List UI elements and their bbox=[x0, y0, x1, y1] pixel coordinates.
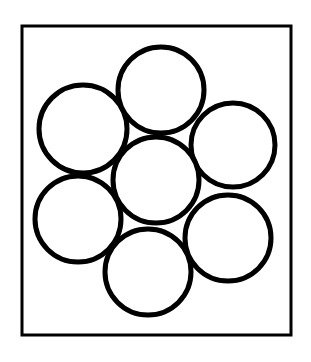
figure-container bbox=[0, 0, 311, 362]
circle-lower-right bbox=[185, 195, 271, 281]
figure-caption bbox=[0, 340, 311, 362]
circle-bottom bbox=[105, 229, 191, 315]
circle-upper-left bbox=[39, 85, 127, 173]
circle-packing-diagram bbox=[0, 0, 311, 362]
circle-top bbox=[118, 47, 204, 133]
circle-lower-left bbox=[35, 176, 121, 262]
circle-center bbox=[113, 137, 199, 223]
circle-upper-right bbox=[191, 103, 275, 187]
